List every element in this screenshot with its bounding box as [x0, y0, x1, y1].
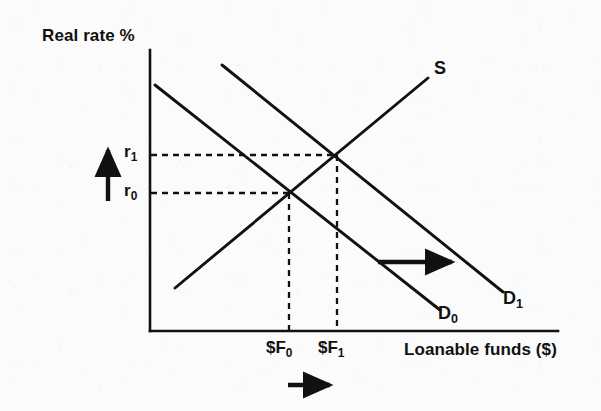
- curve-label-supply: S: [434, 59, 446, 77]
- supply-curve-s: [175, 78, 428, 288]
- demand-curve-d0: [155, 85, 440, 310]
- curve-label-demand-1-base: D: [503, 288, 516, 308]
- curve-label-demand-1-subscript: 1: [516, 297, 523, 311]
- y-axis-title: Real rate %: [42, 27, 135, 44]
- x-tick-label-f0: $F0: [266, 339, 292, 356]
- x-tick-f0-subscript: 0: [286, 346, 293, 360]
- x-tick-f1-base: $F: [318, 338, 338, 357]
- y-tick-r0-subscript: 0: [131, 189, 138, 203]
- x-tick-f1-subscript: 1: [338, 346, 345, 360]
- y-tick-label-r0: r0: [124, 182, 137, 199]
- x-axis-title: Loanable funds ($): [404, 341, 557, 358]
- diagram-page: Real rate % Loanable funds ($) r1 r0 $F0…: [0, 0, 601, 411]
- y-tick-label-r1: r1: [124, 143, 137, 160]
- y-tick-r1-base: r: [124, 142, 131, 161]
- y-tick-r1-subscript: 1: [131, 150, 138, 164]
- curve-label-supply-base: S: [434, 58, 446, 78]
- curve-label-demand-0-base: D: [438, 303, 451, 323]
- demand-curve-d1: [222, 65, 503, 292]
- x-tick-label-f1: $F1: [318, 339, 344, 356]
- x-tick-f0-base: $F: [266, 338, 286, 357]
- curve-label-demand-0-subscript: 0: [451, 312, 458, 326]
- curve-label-demand-1: D1: [503, 289, 523, 307]
- curve-label-demand-0: D0: [438, 304, 458, 322]
- y-tick-r0-base: r: [124, 181, 131, 200]
